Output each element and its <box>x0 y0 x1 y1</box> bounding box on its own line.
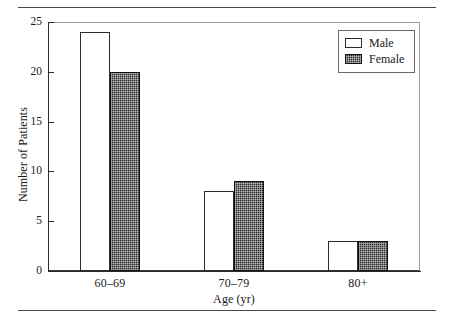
bar-male-1 <box>204 191 234 271</box>
legend-swatch-female-icon <box>345 54 362 64</box>
x-tick-label-2: 80+ <box>313 276 403 291</box>
bar-female-0 <box>110 72 140 271</box>
bar-female-2 <box>358 241 388 271</box>
legend-label-male: Male <box>369 37 394 49</box>
legend-label-female: Female <box>369 53 404 65</box>
bar-male-2 <box>328 241 358 271</box>
y-tick-mark <box>48 271 54 272</box>
y-tick-label: 25 <box>2 16 42 28</box>
y-tick-label: 0 <box>2 265 42 277</box>
x-tick-label-0: 60–69 <box>65 276 155 291</box>
y-tick-label: 20 <box>2 66 42 78</box>
y-axis-title: Number of Patients <box>16 80 31 230</box>
chart-page: { "chart_data": { "type": "bar", "title"… <box>0 0 452 321</box>
legend-swatch-male-icon <box>345 38 362 48</box>
bottom-divider-rule <box>18 310 436 311</box>
x-axis-line <box>48 271 421 272</box>
bar-female-1 <box>234 181 264 271</box>
x-tick-label-1: 70–79 <box>189 276 279 291</box>
top-divider-rule <box>18 7 436 8</box>
legend: Male Female <box>338 30 415 73</box>
legend-item-female: Female <box>345 51 409 67</box>
legend-item-male: Male <box>345 35 409 51</box>
x-axis-title: Age (yr) <box>48 292 420 307</box>
bar-male-0 <box>80 32 110 271</box>
